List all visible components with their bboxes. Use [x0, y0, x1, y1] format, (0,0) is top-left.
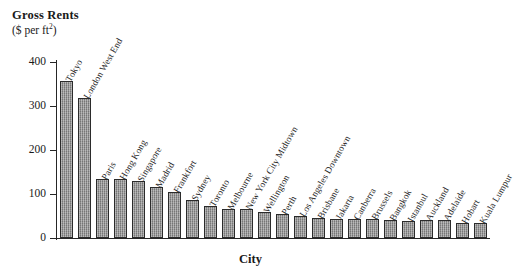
plot-area: [57, 62, 489, 238]
y-axis-tick-label: 300: [2, 99, 46, 111]
bar: [150, 187, 163, 238]
bar: [60, 81, 73, 238]
bar: [438, 220, 451, 238]
bar: [348, 219, 361, 238]
bar: [204, 206, 217, 238]
y-axis-tick: [50, 106, 56, 107]
bar: [240, 209, 253, 238]
bar: [276, 214, 289, 238]
bar: [114, 179, 127, 238]
x-axis-title: City: [0, 252, 501, 267]
y-axis-tick-label: 0: [2, 231, 46, 243]
y-axis-tick-label: 200: [2, 143, 46, 155]
bar: [420, 220, 433, 238]
y-axis-tick-label: 400: [2, 55, 46, 67]
bar: [132, 181, 145, 238]
y-axis-tick: [50, 150, 56, 151]
bar: [96, 179, 109, 238]
bar: [258, 212, 271, 238]
y-axis-tick: [50, 238, 56, 239]
bar: [366, 219, 379, 238]
bar: [294, 216, 307, 238]
bar: [330, 219, 343, 238]
y-axis-tick: [50, 194, 56, 195]
chart-title: Gross Rents: [12, 8, 79, 23]
bar: [384, 220, 397, 238]
bar: [402, 221, 415, 238]
bar: [168, 192, 181, 238]
bar: [78, 98, 91, 238]
bar: [186, 200, 199, 238]
chart-units-label: ($ per ft2): [12, 24, 79, 38]
units-close-paren: ): [53, 24, 57, 36]
bar: [312, 218, 325, 238]
x-axis-line: [56, 238, 490, 239]
bars-group: [57, 62, 489, 238]
y-axis-tick: [50, 62, 56, 63]
chart-title-block: Gross Rents ($ per ft2): [12, 8, 79, 37]
y-axis-tick-label: 100: [2, 187, 46, 199]
bar: [222, 209, 235, 238]
units-text: ($ per ft: [12, 24, 49, 36]
